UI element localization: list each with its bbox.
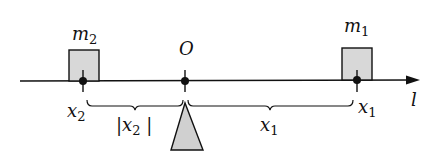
lever-diagram: m2 m1 O x2 x1 l |x2 | x1 bbox=[0, 0, 438, 155]
mass-m1-label: m1 bbox=[344, 15, 369, 39]
origin-label: O bbox=[179, 38, 194, 59]
fulcrum-triangle bbox=[171, 103, 203, 150]
mass-m2-box bbox=[69, 50, 99, 81]
x1-point-icon bbox=[353, 76, 361, 84]
distance-right-label: x1 bbox=[260, 114, 278, 138]
axis-arrow-icon bbox=[406, 76, 420, 85]
x2-label: x2 bbox=[67, 100, 85, 124]
origin-point-icon bbox=[181, 77, 189, 85]
distance-left-label: |x2 | bbox=[116, 114, 152, 138]
mass-m2-label: m2 bbox=[72, 23, 97, 47]
x2-point-icon bbox=[79, 77, 87, 85]
x1-label: x1 bbox=[358, 96, 376, 120]
brace-right bbox=[188, 100, 353, 110]
axis-label: l bbox=[411, 89, 417, 110]
brace-left bbox=[87, 100, 183, 110]
